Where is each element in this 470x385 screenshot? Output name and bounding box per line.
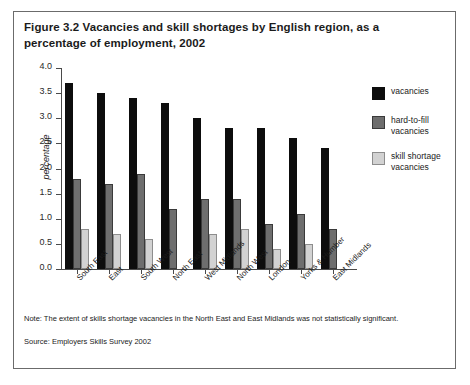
figure-title: Figure 3.2 Vacancies and skill shortages…: [24, 20, 444, 51]
y-axis-tick-label: 0.5: [39, 237, 52, 247]
legend-label: vacancies: [391, 86, 454, 97]
bar: [97, 93, 105, 269]
bar: [233, 199, 241, 269]
legend-label: hard-to-fill vacancies: [391, 115, 454, 138]
bar-group: [65, 68, 89, 269]
bar: [289, 138, 297, 269]
bar: [169, 209, 177, 269]
legend-swatch: [372, 87, 385, 100]
y-axis-line: [61, 68, 62, 270]
legend-swatch: [372, 152, 385, 165]
bar: [201, 199, 209, 269]
y-axis-tick-label: 1.0: [39, 212, 52, 222]
bar-group: [289, 68, 313, 269]
figure-note: Note: The extent of skills shortage vaca…: [24, 314, 444, 323]
figure-source: Source: Employers Skills Survey 2002: [24, 337, 444, 346]
bar-group: [161, 68, 185, 269]
bar-group: [97, 68, 121, 269]
y-axis-tick: 2.0: [56, 169, 61, 170]
bar: [65, 83, 73, 269]
y-axis-tick-label: 3.5: [39, 86, 52, 96]
y-axis-tick: 4.0: [56, 68, 61, 69]
bar: [193, 118, 201, 269]
y-axis-tick: 1.0: [56, 219, 61, 220]
bar: [161, 103, 169, 269]
y-axis-tick: 0.5: [56, 244, 61, 245]
legend-item: vacancies: [372, 86, 454, 102]
y-axis-tick: 0.0: [56, 269, 61, 270]
figure-frame: Figure 3.2 Vacancies and skill shortages…: [13, 11, 456, 369]
bar: [113, 234, 121, 269]
bar: [265, 224, 273, 269]
bar-group: [225, 68, 249, 269]
y-axis-tick-label: 3.0: [39, 111, 52, 121]
bar-group: [193, 68, 217, 269]
legend-swatch: [372, 116, 385, 129]
y-axis-tick: 3.0: [56, 118, 61, 119]
bar-group: [129, 68, 153, 269]
legend-item: hard-to-fill vacancies: [372, 115, 454, 138]
chart-legend: vacancieshard-to-fill vacanciesskill sho…: [372, 86, 454, 187]
legend-item: skill shortage vacancies: [372, 151, 454, 174]
y-axis-title: percentage: [41, 134, 51, 179]
bar-group: [257, 68, 281, 269]
y-axis-tick: 2.5: [56, 143, 61, 144]
bar: [129, 98, 137, 269]
legend-label: skill shortage vacancies: [391, 151, 454, 174]
y-axis-tick: 1.5: [56, 194, 61, 195]
y-axis-tick-label: 4.0: [39, 61, 52, 71]
y-axis-tick-label: 1.5: [39, 187, 52, 197]
chart-plot-area: 0.00.51.01.52.02.53.03.54.0 percentage S…: [61, 68, 349, 270]
bar: [137, 174, 145, 269]
y-axis-tick-label: 0.0: [39, 262, 52, 272]
bar: [297, 214, 305, 269]
y-axis-tick: 3.5: [56, 93, 61, 94]
bar: [73, 179, 81, 269]
